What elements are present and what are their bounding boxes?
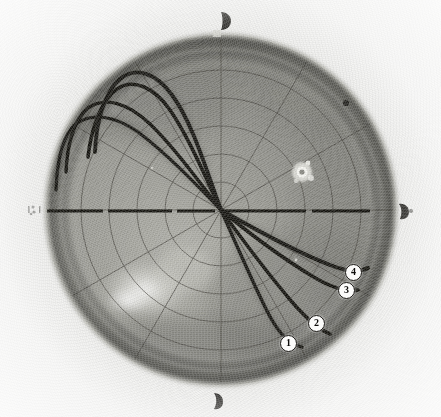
plate-figure: 1 2 3 4 [0, 0, 441, 417]
callout-3: 3 [338, 282, 355, 299]
plate-svg [0, 0, 441, 417]
plate-notch-top [213, 30, 221, 37]
callout-1: 1 [280, 335, 297, 352]
callout-2: 2 [308, 315, 325, 332]
plate-mark-upper-right [343, 100, 349, 106]
callout-4: 4 [345, 264, 362, 281]
fiducial-right-dot [409, 209, 413, 213]
